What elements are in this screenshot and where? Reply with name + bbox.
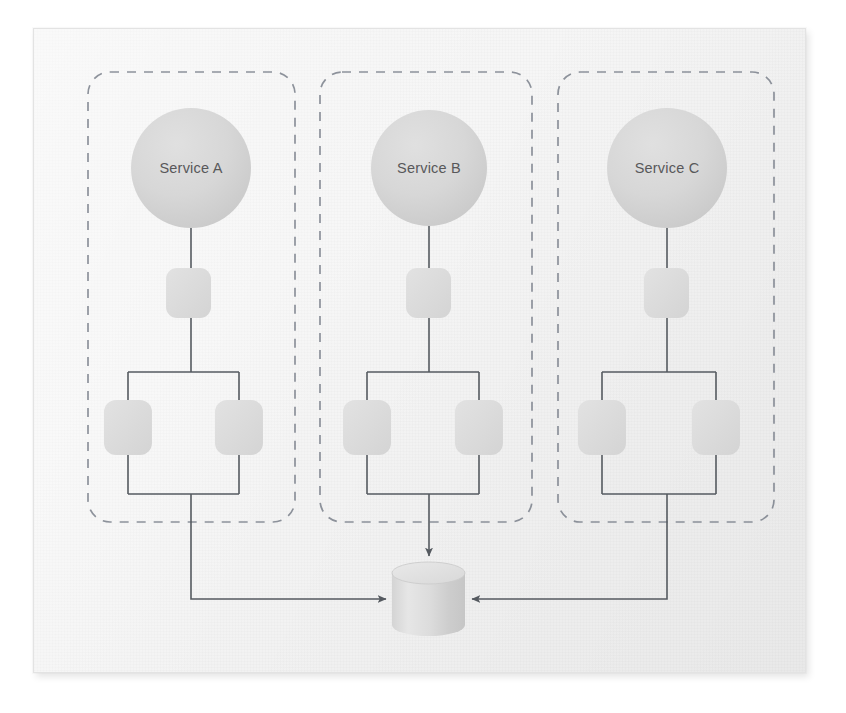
service-c-node-circle[interactable] [607, 108, 727, 228]
service-a-leaf-box-left[interactable] [104, 400, 152, 455]
arrow-service-c-to-datastore [472, 494, 667, 599]
service-c-middle-box[interactable] [644, 268, 689, 318]
service-b-leaf-box-right[interactable] [455, 400, 503, 455]
service-a-leaf-box-right[interactable] [215, 400, 263, 455]
service-b-middle-box[interactable] [406, 268, 451, 318]
service-a-middle-box[interactable] [166, 268, 211, 318]
service-b-tree [343, 110, 503, 494]
service-b-node-circle[interactable] [371, 110, 487, 226]
service-c-leaf-box-right[interactable] [692, 400, 740, 455]
service-a-node-circle[interactable] [131, 108, 251, 228]
service-c-leaf-box-left[interactable] [578, 400, 626, 455]
diagram-canvas: Service A Service B Service C [0, 0, 846, 713]
service-c-tree [578, 108, 740, 494]
datastore-cylinder[interactable] [392, 562, 465, 636]
service-b-leaf-box-left[interactable] [343, 400, 391, 455]
service-a-tree [104, 108, 263, 494]
arrow-service-a-to-datastore [191, 494, 386, 599]
diagram-svg-layer [0, 0, 846, 713]
